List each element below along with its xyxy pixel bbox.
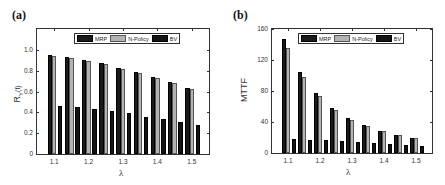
y-tick-mark-right bbox=[430, 60, 432, 61]
bar-npolicy-1.20 bbox=[318, 96, 322, 153]
x-tick-label: 1.2 bbox=[310, 157, 330, 164]
bar-bv-1.10 bbox=[292, 139, 296, 153]
legend-swatch bbox=[301, 35, 317, 42]
y-tick-mark bbox=[272, 153, 274, 154]
legend-b: MRPN-PolicyBV bbox=[298, 33, 404, 44]
bar-npolicy-1.45 bbox=[398, 135, 402, 153]
bar-npolicy-1.50 bbox=[414, 138, 418, 153]
plot-area-b bbox=[271, 28, 433, 154]
bar-npolicy-1.15 bbox=[302, 77, 306, 153]
y-tick-mark-right bbox=[430, 91, 432, 92]
x-tick-label: 1.3 bbox=[342, 157, 362, 164]
legend-label: N-Policy bbox=[352, 36, 372, 42]
y-tick-label: 0 bbox=[246, 149, 268, 156]
legend-item-mrp: MRP bbox=[301, 35, 331, 42]
x-tick-label: 1.5 bbox=[406, 157, 426, 164]
y-tick-mark bbox=[272, 91, 274, 92]
y-tick-mark bbox=[272, 29, 274, 30]
y-tick-mark bbox=[272, 122, 274, 123]
bar-bv-1.15 bbox=[308, 140, 312, 153]
y-tick-label: 80 bbox=[246, 87, 268, 94]
legend-label: BV bbox=[394, 36, 401, 42]
y-tick-mark bbox=[272, 60, 274, 61]
bar-bv-1.30 bbox=[356, 142, 360, 153]
bar-npolicy-1.30 bbox=[350, 120, 354, 153]
x-tick-mark-top bbox=[384, 29, 385, 31]
bar-bv-1.35 bbox=[372, 143, 376, 153]
x-tick-mark-top bbox=[416, 29, 417, 31]
bar-bv-1.45 bbox=[404, 145, 408, 153]
legend-swatch bbox=[334, 35, 350, 42]
bar-npolicy-1.40 bbox=[382, 131, 386, 153]
bar-bv-1.25 bbox=[340, 141, 344, 153]
bar-bv-1.50 bbox=[420, 146, 424, 153]
bar-npolicy-1.35 bbox=[366, 126, 370, 153]
y-tick-mark-right bbox=[430, 29, 432, 30]
x-tick-label: 1.4 bbox=[374, 157, 394, 164]
panel-label-b: (b) bbox=[233, 8, 248, 23]
bar-bv-1.40 bbox=[388, 144, 392, 153]
bar-bv-1.20 bbox=[324, 140, 328, 153]
x-axis-label-b: λ bbox=[346, 167, 350, 177]
y-tick-mark-right bbox=[430, 153, 432, 154]
x-tick-mark-top bbox=[352, 29, 353, 31]
legend-item-npolicy: N-Policy bbox=[334, 35, 372, 42]
x-tick-mark-top bbox=[320, 29, 321, 31]
y-tick-label: 40 bbox=[246, 118, 268, 125]
x-tick-label: 1.1 bbox=[278, 157, 298, 164]
y-tick-mark-right bbox=[430, 122, 432, 123]
bar-npolicy-1.25 bbox=[334, 110, 338, 153]
legend-label: MRP bbox=[319, 36, 331, 42]
y-tick-label: 120 bbox=[246, 56, 268, 63]
x-tick-mark-top bbox=[288, 29, 289, 31]
y-tick-label: 160 bbox=[246, 25, 268, 32]
legend-swatch bbox=[376, 35, 392, 42]
chart-panel-b: (b) MTTF 040801201601.11.21.31.41.5 MRPN… bbox=[0, 0, 445, 185]
legend-item-bv: BV bbox=[376, 35, 401, 42]
bar-npolicy-1.10 bbox=[286, 48, 290, 153]
